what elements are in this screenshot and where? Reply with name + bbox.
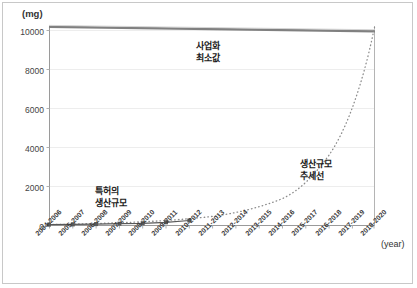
- annotation-line-2: 추세선: [300, 170, 332, 182]
- annotation-line-2: 생산규모: [95, 197, 127, 209]
- annotation-line-2: 최소값: [196, 52, 220, 64]
- annotation-commercialization-minimum: 사업화 최소값: [196, 40, 220, 64]
- annotation-line-1: 특허의: [95, 185, 127, 197]
- annotation-line-1: 생산규모: [300, 158, 332, 170]
- annotation-production-scale-trendline: 생산규모 추세선: [300, 158, 332, 182]
- annotation-patent-production-scale: 특허의 생산규모: [95, 185, 127, 209]
- annotation-line-1: 사업화: [196, 40, 220, 52]
- chart-figure: (mg) (year) 10000 8000 6000 4000 2000 0: [0, 0, 417, 288]
